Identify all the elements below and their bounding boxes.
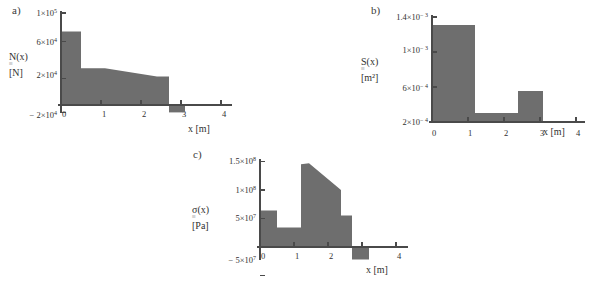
panel-b-xtick-4: 4 — [576, 128, 581, 138]
panel-c: c) σ(x) ≡ [Pa] x [m] 1.5×108 1×108 5×107… — [180, 142, 480, 284]
panel-a-xtick-2: 2 — [142, 109, 146, 119]
panel-a-ytick-0: 1×105 — [36, 8, 57, 18]
panel-c-series-area — [260, 163, 352, 247]
panel-c-xtick-0: 0 — [261, 251, 265, 261]
panel-a-plot: 1×105 6×104 2×104 − 2×104 0 1 2 3 4 — [0, 0, 295, 142]
panel-b: b) S(x) ≡ [m²] x [m] 1.4×10− 3 1×10− 3 6… — [295, 0, 590, 142]
panel-b-ytick-3: 2×10− 4 — [403, 117, 428, 127]
panel-a-series-negative-block — [169, 105, 185, 112]
panel-a-xtick-1: 1 — [102, 109, 106, 119]
panel-c-ytick-3: − 5×107 — [229, 255, 256, 265]
panel-a-xtick-0: 0 — [62, 109, 66, 119]
panel-c-ytick-0: 1.5×108 — [229, 156, 256, 166]
panel-a-series-area — [61, 31, 169, 105]
panel-a-ytick-2: 2×104 — [36, 70, 57, 80]
panel-b-xtick-2: 2 — [504, 128, 508, 138]
panel-b-series-area — [432, 25, 543, 122]
panel-b-xtick-0: 0 — [432, 128, 436, 138]
panel-a-ytick-1: 6×104 — [36, 37, 57, 47]
panel-b-plot: 1.4×10− 3 1×10− 3 6×10− 4 2×10− 4 0 1 2 … — [295, 0, 590, 142]
panel-c-series-negative-block — [352, 247, 369, 260]
panel-b-ytick-2: 6×10− 4 — [403, 83, 428, 93]
panel-b-ytick-1: 1×10− 3 — [403, 45, 428, 55]
panel-a-xtick-4: 4 — [222, 109, 227, 119]
panel-c-ytick-1: 1×108 — [235, 185, 256, 195]
panel-b-xtick-3: 3 — [540, 128, 544, 138]
panel-b-xtick-1: 1 — [468, 128, 472, 138]
panel-c-ytick-2: 5×107 — [235, 213, 256, 223]
panel-c-xtick-2: 2 — [329, 251, 333, 261]
panel-c-xtick-4: 4 — [397, 251, 402, 261]
panel-b-ytick-0: 1.4×10− 3 — [396, 12, 428, 22]
panel-c-plot: 1.5×108 1×108 5×107 − 5×107 0 1 2 3 4 — [180, 142, 480, 284]
panel-a: a) N(x) ≡ [N] x [m] 1×105 6×104 2×104 − … — [0, 0, 295, 142]
panel-a-ytick-3: − 2×104 — [30, 110, 57, 120]
panel-c-xtick-1: 1 — [295, 251, 299, 261]
